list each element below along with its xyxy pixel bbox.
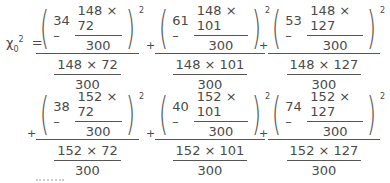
term-numerator: ( 38 – 152 × 72 300 ) 2 — [36, 90, 139, 138]
term-denominator: 148 × 101 300 — [173, 57, 248, 92]
chi-term: ( 74 – 152 × 127 300 ) 2 152 × 127 300 — [268, 90, 380, 178]
fraction-bar — [155, 53, 265, 54]
denominator-numerator: 148 × 101 — [173, 57, 248, 75]
left-paren: ( — [272, 92, 281, 136]
expected-fraction: 152 × 127 300 — [307, 89, 362, 139]
plus-sign: + — [259, 127, 268, 140]
chi-term: ( 34 – 148 × 72 300 ) 2 148 × 72 300 — [36, 4, 139, 92]
denominator-denominator: 300 — [198, 161, 223, 178]
term-numerator: ( 40 – 152 × 101 300 ) 2 — [155, 90, 265, 138]
square-exponent: 2 — [139, 92, 144, 101]
right-paren: ) — [126, 92, 135, 136]
fraction-bar — [268, 139, 380, 140]
expected-denominator: 300 — [208, 36, 233, 53]
chi-term: ( 61 – 148 × 101 300 ) 2 148 × 101 300 — [155, 4, 265, 92]
expected-numerator: 152 × 72 — [75, 89, 122, 122]
superscript: 2 — [19, 35, 24, 44]
expected-numerator: 148 × 101 — [194, 3, 248, 36]
expected-denominator: 300 — [208, 122, 233, 139]
term-denominator: 152 × 101 300 — [173, 143, 248, 178]
plus-sign: + — [259, 39, 268, 52]
denominator-numerator: 152 × 127 — [287, 143, 362, 161]
term-denominator: 148 × 72 300 — [54, 57, 121, 92]
expected-fraction: 152 × 101 300 — [194, 89, 248, 139]
observed-value: 61 – — [172, 13, 192, 43]
observed-value: 40 – — [172, 99, 192, 129]
expected-fraction: 148 × 127 300 — [307, 3, 362, 53]
expected-numerator: 152 × 127 — [307, 89, 362, 122]
cut-off-text — [36, 179, 64, 183]
fraction-bar — [268, 53, 380, 54]
denominator-numerator: 148 × 72 — [54, 57, 121, 75]
term-denominator: 148 × 127 300 — [287, 57, 362, 92]
fraction-bar — [36, 139, 139, 140]
subscript: 0 — [14, 45, 19, 54]
expected-numerator: 152 × 101 — [194, 89, 248, 122]
chi-letter: χ — [6, 35, 14, 50]
fraction-bar — [36, 53, 139, 54]
observed-value: 38 – — [53, 99, 72, 129]
right-paren: ) — [367, 6, 376, 50]
denominator-numerator: 152 × 72 — [54, 143, 121, 161]
denominator-denominator: 300 — [75, 161, 100, 178]
chi-term: ( 40 – 152 × 101 300 ) 2 152 × 101 300 — [155, 90, 265, 178]
denominator-numerator: 148 × 127 — [287, 57, 362, 75]
term-numerator: ( 61 – 148 × 101 300 ) 2 — [155, 4, 265, 52]
left-paren: ( — [159, 92, 168, 136]
expected-fraction: 152 × 72 300 — [75, 89, 122, 139]
expected-denominator: 300 — [86, 36, 111, 53]
left-paren: ( — [40, 6, 49, 50]
fraction-bar — [155, 139, 265, 140]
square-exponent: 2 — [139, 6, 144, 15]
expected-fraction: 148 × 72 300 — [75, 3, 122, 53]
term-numerator: ( 74 – 152 × 127 300 ) 2 — [268, 90, 380, 138]
square-exponent: 2 — [380, 92, 385, 101]
chi-term: ( 53 – 148 × 127 300 ) 2 148 × 127 300 — [268, 4, 380, 92]
term-denominator: 152 × 127 300 — [287, 143, 362, 178]
expected-fraction: 148 × 101 300 — [194, 3, 248, 53]
expected-numerator: 148 × 127 — [307, 3, 362, 36]
right-paren: ) — [367, 92, 376, 136]
observed-value: 74 – — [285, 99, 305, 129]
term-numerator: ( 34 – 148 × 72 300 ) 2 — [36, 4, 139, 52]
term-denominator: 152 × 72 300 — [54, 143, 121, 178]
chi-term: ( 38 – 152 × 72 300 ) 2 152 × 72 300 — [36, 90, 139, 178]
expected-denominator: 300 — [323, 122, 348, 139]
left-paren: ( — [159, 6, 168, 50]
left-paren: ( — [272, 6, 281, 50]
observed-value: 34 – — [53, 13, 72, 43]
right-paren: ) — [126, 6, 135, 50]
square-exponent: 2 — [380, 6, 385, 15]
denominator-numerator: 152 × 101 — [173, 143, 248, 161]
observed-value: 53 – — [285, 13, 305, 43]
denominator-denominator: 300 — [312, 161, 337, 178]
expected-denominator: 300 — [86, 122, 111, 139]
plus-sign: + — [146, 127, 155, 140]
plus-sign: + — [27, 127, 36, 140]
expected-denominator: 300 — [323, 36, 348, 53]
term-numerator: ( 53 – 148 × 127 300 ) 2 — [268, 4, 380, 52]
left-paren: ( — [40, 92, 49, 136]
expected-numerator: 148 × 72 — [75, 3, 122, 36]
plus-sign: + — [146, 39, 155, 52]
